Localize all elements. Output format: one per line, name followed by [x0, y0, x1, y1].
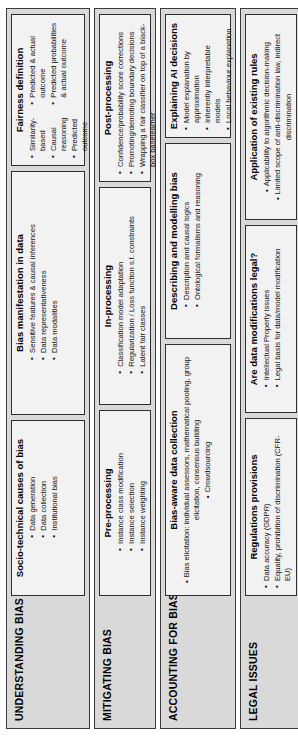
- list-item: Instance class modification: [116, 453, 126, 544]
- card-title-fairness-definition: Fairness definition: [15, 20, 26, 160]
- bullet-list: Model explanation by approximation Inher…: [182, 20, 235, 132]
- card-body-bias-aware-data-collection: Bias elicitation: individual assessors, …: [182, 350, 227, 590]
- card-title-are-data-modifications-legal: Are data modifications legal?: [249, 231, 260, 407]
- bullet-list: Description and causal logics Ontologica…: [182, 173, 227, 309]
- list-item: Confidence/probability score corrections: [116, 20, 126, 167]
- list-item: Classification model adaptation: [116, 216, 126, 367]
- card-body-application-of-existing-rules: Applicability to algorithmic decision-ma…: [262, 20, 295, 214]
- card-body-fairness-definition: Similarity-based Causal reasoning Predic…: [28, 20, 91, 160]
- card-body-regulations-provisions: Data accuracy (GDPR) Equality, prohibiti…: [262, 424, 294, 590]
- section-title-mitigating-bias: MITIGATING BIAS: [99, 601, 113, 723]
- card-body-describing-and-modelling-bias: Description and causal logics Ontologica…: [182, 149, 227, 333]
- card-title-regulations-provisions: Regulations provisions: [249, 424, 260, 590]
- card-bias-aware-data-collection: Bias-aware data collection Bias elicitat…: [165, 344, 231, 596]
- list-item: Data generation: [28, 476, 38, 530]
- list-item: Data modalities: [50, 224, 60, 353]
- list-item: Ontological formalisms and reasoning: [193, 173, 203, 300]
- list-item: Instance weighting: [138, 453, 148, 544]
- list-item: Bias elicitation: individual assessors, …: [182, 350, 203, 590]
- section-cards-mitigating-bias: Pre-processing Instance class modificati…: [99, 14, 151, 596]
- section-cards-understanding-bias: Socio-technical causes of bias Data gene…: [11, 14, 85, 596]
- list-item: Data representativeness: [39, 224, 49, 353]
- card-body-socio-technical-causes: Data generation Data collection Institut…: [28, 426, 81, 590]
- card-regulations-provisions: Regulations provisions Data accuracy (GD…: [245, 418, 297, 596]
- card-body-post-processing: Confidence/probability score corrections…: [116, 20, 159, 176]
- list-item: Intellectual Property issues: [262, 249, 272, 381]
- card-are-data-modifications-legal: Are data modifications legal? Intellectu…: [245, 225, 297, 413]
- list-item: Causal reasoning: [49, 115, 69, 151]
- card-title-in-processing: In-processing: [103, 193, 114, 399]
- bullet-list-column-1: Similarity-based Causal reasoning Predic…: [28, 115, 91, 160]
- list-item: Regularization / Loss function s.t. cons…: [127, 216, 137, 367]
- list-item: Model explanation by approximation: [182, 20, 202, 123]
- list-item: Predicted probabilities & actual outcome: [49, 20, 69, 98]
- card-title-socio-technical-causes: Socio-technical causes of bias: [15, 426, 26, 590]
- card-title-post-processing: Post-processing: [103, 20, 114, 176]
- card-body-explaining-ai-decisions: Model explanation by approximation Inher…: [182, 20, 235, 132]
- bullet-list-column-2: Predicted & actual outcome Predicted pro…: [28, 20, 91, 107]
- list-item: Description and causal logics: [182, 173, 192, 300]
- section-mitigating-bias: MITIGATING BIAS Pre-processing Instance …: [94, 8, 156, 729]
- section-legal-issues: LEGAL ISSUES Regulations provisions Data…: [240, 8, 298, 729]
- card-socio-technical-causes: Socio-technical causes of bias Data gene…: [11, 420, 85, 596]
- card-pre-processing: Pre-processing Instance class modificati…: [99, 410, 151, 596]
- card-bias-manifestation-in-data: Bias manifestation in data Sensitive fea…: [11, 171, 85, 415]
- list-item: Predicted outcome: [70, 115, 90, 151]
- card-describing-and-modelling-bias: Describing and modelling bias Descriptio…: [165, 143, 231, 339]
- section-title-accounting-for-bias: ACCOUNTING FOR BIAS: [165, 601, 179, 723]
- list-item: Data accuracy (GDPR): [262, 424, 272, 581]
- list-item: Data collection: [39, 476, 49, 530]
- list-item: Inherently interpretable models: [203, 20, 223, 123]
- list-item: Instance selection: [127, 453, 137, 544]
- bullet-list: Sensitive features & causal inferences D…: [28, 224, 81, 362]
- taxonomy-diagram: UNDERSTANDING BIAS Socio-technical cause…: [0, 0, 298, 737]
- list-item: Limited scope of anti-discrimination law…: [273, 20, 294, 214]
- section-cards-legal-issues: Regulations provisions Data accuracy (GD…: [245, 14, 297, 596]
- section-cards-accounting-for-bias: Bias-aware data collection Bias elicitat…: [165, 14, 231, 596]
- card-post-processing: Post-processing Confidence/probability s…: [99, 14, 151, 182]
- list-item: Latent fair classes: [138, 216, 148, 367]
- list-item: Predicted & actual outcome: [28, 20, 48, 98]
- bullet-list: Data accuracy (GDPR) Equality, prohibiti…: [262, 424, 294, 590]
- bullet-list: Data generation Data collection Institut…: [28, 476, 81, 539]
- list-item: Institutional bias: [50, 476, 60, 530]
- card-body-in-processing: Classification model adaptation Regulari…: [116, 193, 149, 399]
- card-fairness-definition: Fairness definition Similarity-based Cau…: [11, 14, 85, 166]
- card-body-bias-manifestation-in-data: Sensitive features & causal inferences D…: [28, 177, 81, 409]
- list-item: Local behaviour explanation: [224, 20, 234, 123]
- section-accounting-for-bias: ACCOUNTING FOR BIAS Bias-aware data coll…: [160, 8, 236, 729]
- list-item: Similarity-based: [28, 115, 48, 151]
- list-item: Wrapping a fair classifier on top of a b…: [138, 20, 158, 167]
- rotated-figure-wrapper: UNDERSTANDING BIAS Socio-technical cause…: [0, 0, 298, 737]
- section-understanding-bias: UNDERSTANDING BIAS Socio-technical cause…: [6, 8, 90, 729]
- bullet-list: Bias elicitation: individual assessors, …: [182, 350, 227, 590]
- list-item: Crowdsourcing: [203, 350, 214, 590]
- list-item: Promoting/demoting boundary decisions: [127, 20, 137, 167]
- card-title-describing-and-modelling-bias: Describing and modelling bias: [169, 149, 180, 333]
- card-title-bias-aware-data-collection: Bias-aware data collection: [169, 350, 180, 590]
- card-explaining-ai-decisions: Explaining AI decisions Model explanatio…: [165, 14, 231, 138]
- list-item: Legal basis for data/model modification: [273, 249, 283, 381]
- card-application-of-existing-rules: Application of existing rules Applicabil…: [245, 14, 297, 220]
- card-title-application-of-existing-rules: Application of existing rules: [249, 20, 260, 214]
- card-body-pre-processing: Instance class modification Instance sel…: [116, 416, 149, 590]
- card-body-are-data-modifications-legal: Intellectual Property issues Legal basis…: [262, 231, 293, 407]
- list-item: Applicability to algorithmic decision-ma…: [262, 20, 273, 214]
- section-title-understanding-bias: UNDERSTANDING BIAS: [11, 601, 25, 723]
- bullet-list: Intellectual Property issues Legal basis…: [262, 249, 293, 390]
- bullet-list: Classification model adaptation Regulari…: [116, 216, 149, 376]
- bullet-list: Applicability to algorithmic decision-ma…: [262, 20, 295, 214]
- card-title-explaining-ai-decisions: Explaining AI decisions: [169, 20, 180, 132]
- card-title-pre-processing: Pre-processing: [103, 416, 114, 590]
- card-in-processing: In-processing Classification model adapt…: [99, 187, 151, 405]
- bullet-list: Confidence/probability score corrections…: [116, 20, 159, 176]
- card-title-bias-manifestation-in-data: Bias manifestation in data: [15, 177, 26, 409]
- list-item: Equality, prohibition of discrimination …: [273, 424, 293, 581]
- section-title-legal-issues: LEGAL ISSUES: [245, 601, 259, 723]
- bullet-list: Instance class modification Instance sel…: [116, 453, 149, 553]
- list-item: Sensitive features & causal inferences: [28, 224, 38, 353]
